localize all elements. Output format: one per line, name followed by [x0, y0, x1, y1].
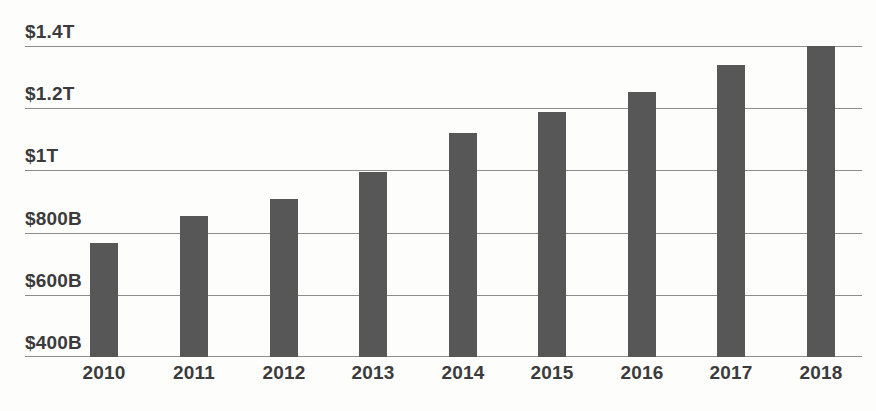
- bar-2018: [807, 46, 835, 357]
- y-axis-tick-label: $1.4T: [25, 21, 75, 43]
- bar-2017: [717, 65, 745, 357]
- bar-chart: $1.4T $1.2T $1T $800B $600B $400B 2010 2…: [0, 0, 876, 411]
- gridline-1400: [25, 46, 862, 47]
- x-axis-tick-label-2011: 2011: [149, 362, 239, 384]
- bar-2011: [180, 216, 208, 357]
- bar-2014: [449, 133, 477, 357]
- bar-2016: [628, 92, 656, 357]
- plot-area: [25, 46, 862, 357]
- x-axis-tick-label-2013: 2013: [328, 362, 418, 384]
- x-axis-tick-label-2014: 2014: [418, 362, 508, 384]
- bar-2010: [90, 243, 118, 357]
- bar-2012: [270, 199, 298, 357]
- x-axis-tick-label-2010: 2010: [59, 362, 149, 384]
- x-axis-tick-label-2012: 2012: [239, 362, 329, 384]
- x-axis-tick-label-2015: 2015: [507, 362, 597, 384]
- bar-2013: [359, 172, 387, 357]
- x-axis-tick-label-2016: 2016: [597, 362, 687, 384]
- x-axis-tick-label-2017: 2017: [686, 362, 776, 384]
- x-axis-tick-label-2018: 2018: [776, 362, 866, 384]
- bar-2015: [538, 112, 566, 357]
